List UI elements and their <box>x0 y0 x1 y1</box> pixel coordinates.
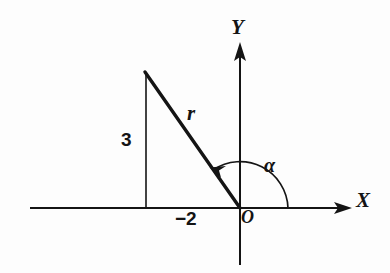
y-axis-label: Y <box>231 17 244 38</box>
x-axis-label: X <box>356 190 370 211</box>
horizontal-leg-label: −2 <box>175 209 197 228</box>
radius-label: r <box>187 103 195 124</box>
origin-label: O <box>241 208 254 226</box>
coordinate-diagram: Y X O r 3 −2 α <box>0 0 390 273</box>
vertical-leg-label: 3 <box>121 130 132 149</box>
terminal-ray-segment <box>145 72 240 208</box>
diagram-canvas <box>0 0 390 273</box>
angle-label: α <box>264 155 275 175</box>
